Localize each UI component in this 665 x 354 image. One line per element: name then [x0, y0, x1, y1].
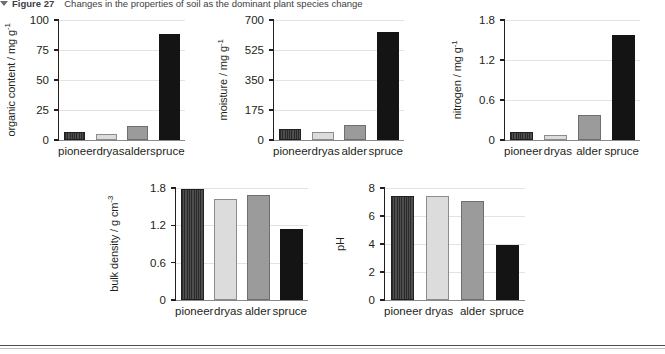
bar-slot — [274, 20, 307, 140]
y-tick-labels-bulk-density: 00.61.21.8 — [134, 188, 170, 300]
y-tick-label: 75 — [36, 44, 49, 56]
y-tick-label: 0 — [489, 134, 495, 146]
bar-bulk-density-pioneer — [181, 189, 203, 300]
bar-ph-dryas — [426, 196, 450, 300]
plot-area-moisture — [273, 20, 404, 141]
y-tick-label: 0.6 — [479, 94, 495, 106]
bar-group-moisture — [274, 20, 404, 140]
plot-area-nitrogen — [504, 20, 640, 141]
bar-slot — [385, 188, 420, 300]
y-tick-label: 1.8 — [479, 14, 495, 26]
chart-bulk-density: bulk density / g cm-300.61.21.8pioneerdr… — [105, 182, 315, 330]
x-tick-label-pioneer: pioneer — [384, 305, 422, 317]
bar-bulk-density-spruce — [280, 229, 302, 300]
y-tick-label: 350 — [245, 74, 264, 86]
bar-ph-spruce — [496, 245, 520, 300]
x-axis-labels-moisture: pioneerdryasalderspruce — [273, 145, 403, 157]
bar-group-ph — [385, 188, 525, 300]
bar-group-nitrogen — [505, 20, 640, 140]
figure-number: Figure 27 — [12, 0, 54, 9]
y-tick-label: 525 — [245, 44, 264, 56]
bar-slot — [372, 20, 405, 140]
chart-organic-content: organic content / mg g-10255075100pionee… — [2, 12, 192, 172]
y-tick-labels-nitrogen: 00.61.21.8 — [461, 20, 499, 140]
x-axis-labels-bulk-density: pioneerdryasalderspruce — [175, 305, 307, 317]
y-tick-label: 175 — [245, 104, 264, 116]
y-tick-label: 1.8 — [150, 182, 166, 194]
bar-slot — [59, 20, 91, 140]
x-tick-label-alder: alder — [456, 305, 490, 317]
bar-slot — [505, 20, 539, 140]
y-tick-labels-organic-content: 0255075100 — [15, 20, 53, 140]
y-tick-label: 8 — [369, 182, 375, 194]
bar-slot — [455, 188, 490, 300]
bar-organic-content-dryas — [96, 134, 117, 140]
x-tick-label-pioneer: pioneer — [273, 145, 311, 157]
bar-nitrogen-alder — [578, 115, 601, 140]
bar-nitrogen-dryas — [544, 135, 567, 140]
x-tick-label-spruce: spruce — [604, 145, 639, 157]
y-tick-label: 6 — [369, 210, 375, 222]
y-tick-labels-moisture: 0175350525700 — [228, 20, 268, 140]
x-tick-label-alder: alder — [243, 305, 273, 317]
plot-area-ph — [384, 188, 525, 301]
bar-slot — [420, 188, 455, 300]
chart-nitrogen: nitrogen / mg g-100.61.21.8pioneerdryasa… — [448, 12, 653, 172]
x-tick-label-dryas: dryas — [422, 305, 456, 317]
x-tick-label-dryas: dryas — [96, 145, 124, 157]
y-tick-label: 4 — [369, 238, 375, 250]
x-tick-label-pioneer: pioneer — [175, 305, 213, 317]
page-divider — [0, 345, 665, 347]
chart-ph: pH02468pioneerdryasalderspruce — [332, 182, 532, 330]
bar-organic-content-pioneer — [64, 132, 85, 140]
bar-slot — [209, 188, 242, 300]
plot-area-organic-content — [58, 20, 185, 141]
figure-caption-text: Changes in the properties of soil as the… — [64, 0, 362, 9]
bar-moisture-spruce — [377, 32, 399, 140]
bar-slot — [307, 20, 340, 140]
y-tick-label: 25 — [36, 104, 49, 116]
bar-slot — [573, 20, 607, 140]
x-tick-label-spruce: spruce — [368, 145, 403, 157]
page-divider-secondary — [0, 348, 665, 349]
x-tick-label-spruce: spruce — [150, 145, 185, 157]
x-tick-label-spruce: spruce — [489, 305, 524, 317]
bar-moisture-pioneer — [279, 129, 301, 140]
bar-slot — [154, 20, 186, 140]
x-axis-labels-nitrogen: pioneerdryasalderspruce — [504, 145, 639, 157]
chart-moisture: moisture / mg g-10175350525700pioneerdry… — [215, 12, 415, 172]
y-tick-label: 1.2 — [479, 54, 495, 66]
x-axis-labels-ph: pioneerdryasalderspruce — [384, 305, 524, 317]
bar-moisture-alder — [344, 125, 366, 140]
y-tick-label: 2 — [369, 266, 375, 278]
bar-slot — [91, 20, 123, 140]
bar-slot — [539, 20, 573, 140]
y-tick-label: 0 — [43, 134, 49, 146]
y-tick-label: 0 — [369, 294, 375, 306]
x-tick-label-alder: alder — [125, 145, 151, 157]
bar-group-organic-content — [59, 20, 185, 140]
y-tick-label: 700 — [245, 14, 264, 26]
triangle-down-icon — [0, 1, 8, 6]
y-tick-label: 100 — [30, 14, 49, 26]
y-tick-label: 0 — [258, 134, 264, 146]
bar-ph-alder — [461, 201, 485, 300]
x-tick-label-spruce: spruce — [272, 305, 307, 317]
plot-area-bulk-density — [175, 188, 308, 301]
y-tick-label: 1.2 — [150, 219, 166, 231]
bar-nitrogen-pioneer — [510, 132, 533, 140]
y-tick-label: 50 — [36, 74, 49, 86]
bar-slot — [490, 188, 525, 300]
bar-bulk-density-alder — [247, 195, 269, 300]
y-tick-labels-ph: 02468 — [345, 188, 379, 300]
bar-slot — [339, 20, 372, 140]
y-tick-label: 0 — [160, 294, 166, 306]
bar-slot — [122, 20, 154, 140]
x-axis-labels-organic-content: pioneerdryasalderspruce — [58, 145, 184, 157]
bar-group-bulk-density — [176, 188, 308, 300]
bar-moisture-dryas — [312, 132, 334, 140]
bar-slot — [275, 188, 308, 300]
bar-nitrogen-spruce — [612, 35, 635, 140]
x-tick-label-dryas: dryas — [311, 145, 340, 157]
x-tick-label-alder: alder — [573, 145, 604, 157]
